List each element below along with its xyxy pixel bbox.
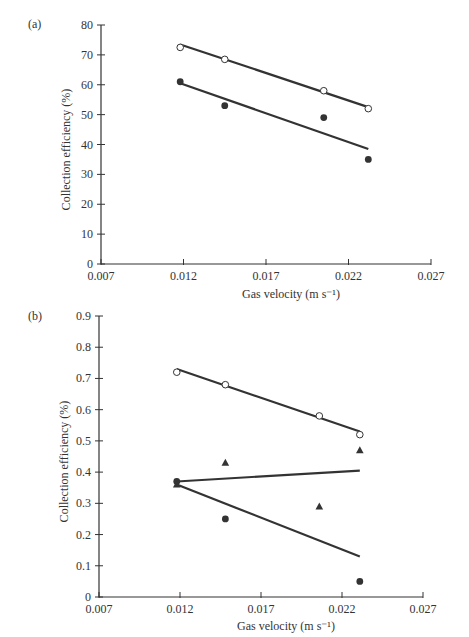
series-open-circles bbox=[173, 369, 363, 438]
filled-triangle-marker bbox=[356, 446, 364, 453]
y-tick-label: 50 bbox=[81, 108, 93, 122]
filled-circle-marker bbox=[173, 478, 180, 485]
filled-triangle-marker bbox=[316, 502, 324, 509]
series-open-circles bbox=[177, 44, 372, 112]
x-tick-label: 0.017 bbox=[253, 269, 280, 283]
x-tick-label: 0.007 bbox=[88, 269, 115, 283]
y-tick-label: 0.9 bbox=[76, 309, 91, 323]
open-circle-marker bbox=[357, 431, 364, 438]
x-tick-label: 0.022 bbox=[329, 602, 356, 616]
x-axis-title: Gas velocity (m s⁻¹) bbox=[237, 619, 335, 633]
trendline bbox=[180, 83, 368, 149]
figure: (a)010203040506070800.0070.0120.0170.022… bbox=[0, 0, 469, 637]
x-tick-label: 0.012 bbox=[170, 269, 197, 283]
y-tick-label: 60 bbox=[81, 78, 93, 92]
y-tick-label: 0.5 bbox=[76, 434, 91, 448]
open-circle-marker bbox=[320, 87, 327, 94]
series-filled-circles bbox=[173, 478, 363, 585]
x-tick-label: 0.022 bbox=[335, 269, 362, 283]
filled-circle-marker bbox=[365, 156, 372, 163]
x-tick-label: 0.027 bbox=[410, 602, 437, 616]
y-tick-label: 0.6 bbox=[76, 403, 91, 417]
x-tick-label: 0.027 bbox=[418, 269, 445, 283]
y-tick-label: 0.3 bbox=[76, 496, 91, 510]
x-tick-label: 0.012 bbox=[167, 602, 194, 616]
y-tick-label: 0.7 bbox=[76, 371, 91, 385]
open-circle-marker bbox=[222, 381, 229, 388]
x-tick-label: 0.007 bbox=[86, 602, 113, 616]
chart-panel-a: (a)010203040506070800.0070.0120.0170.022… bbox=[28, 17, 445, 301]
y-tick-label: 0.4 bbox=[76, 465, 91, 479]
y-axis-title: Collection efficiency (%) bbox=[57, 401, 71, 523]
trendline bbox=[177, 471, 360, 482]
y-tick-label: 80 bbox=[81, 18, 93, 32]
y-tick-label: 30 bbox=[81, 167, 93, 181]
trendline bbox=[177, 485, 360, 557]
x-axis-title: Gas velocity (m s⁻¹) bbox=[242, 287, 340, 301]
trendline bbox=[177, 369, 360, 431]
series-filled-triangles bbox=[173, 446, 364, 509]
open-circle-marker bbox=[365, 105, 372, 112]
filled-circle-marker bbox=[356, 578, 363, 585]
filled-circle-marker bbox=[222, 516, 229, 523]
y-tick-label: 40 bbox=[81, 138, 93, 152]
series-filled-circles bbox=[177, 78, 372, 162]
open-circle-marker bbox=[177, 44, 184, 51]
x-tick-label: 0.017 bbox=[248, 602, 275, 616]
chart-panel-b: (b)00.10.20.30.40.50.60.70.80.90.0070.01… bbox=[28, 309, 437, 633]
panel-label: (a) bbox=[28, 17, 41, 31]
y-axis-title: Collection efficiency (%) bbox=[59, 89, 73, 211]
y-tick-label: 10 bbox=[81, 227, 93, 241]
panel-label: (b) bbox=[28, 309, 42, 323]
filled-triangle-marker bbox=[222, 459, 230, 466]
filled-circle-marker bbox=[320, 114, 327, 121]
y-tick-label: 0.8 bbox=[76, 340, 91, 354]
open-circle-marker bbox=[221, 56, 228, 63]
y-tick-label: 0.1 bbox=[76, 559, 91, 573]
y-tick-label: 70 bbox=[81, 48, 93, 62]
filled-circle-marker bbox=[177, 78, 184, 85]
open-circle-marker bbox=[173, 369, 180, 376]
y-tick-label: 20 bbox=[81, 197, 93, 211]
filled-circle-marker bbox=[221, 102, 228, 109]
open-circle-marker bbox=[316, 413, 323, 420]
trendline bbox=[180, 44, 368, 107]
y-tick-label: 0.2 bbox=[76, 528, 91, 542]
